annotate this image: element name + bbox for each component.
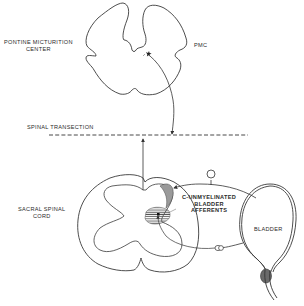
sacral-cord-cross-section [78, 175, 199, 272]
bladder-label: BLADDER [254, 226, 283, 233]
afferents-label-line3: AFFERENTS [182, 207, 236, 214]
sacral-label-line2: CORD [18, 213, 66, 220]
lamina-i-region [160, 184, 173, 208]
micturition-pathway-diagram: PONTINE MICTURITION CENTER PMC SPINAL TR… [0, 0, 304, 306]
pmc-neuron [143, 51, 152, 57]
pontine-label-line1: PONTINE MICTURITION [4, 39, 73, 46]
c-unmyelinated-afferents-label: C-UNMYELINATED BLADDER AFFERENTS [182, 194, 236, 214]
urethra-sphincter [261, 269, 278, 300]
afferents-label-line2: BLADDER [182, 201, 236, 208]
dorsal-root-ganglion [207, 170, 215, 178]
pmc-label: PMC [194, 42, 207, 49]
hatched-region [145, 207, 170, 224]
afferents-label-line1: C-UNMYELINATED [182, 194, 236, 201]
sacral-label-line1: SACRAL SPINAL [18, 206, 66, 213]
pontine-label-line2: CENTER [4, 46, 73, 53]
pontine-micturition-center-label: PONTINE MICTURITION CENTER [4, 39, 73, 52]
spinal-transection-label: SPINAL TRANSECTION [27, 124, 94, 131]
sacral-spinal-cord-label: SACRAL SPINAL CORD [18, 206, 66, 219]
descending-pathway [150, 56, 174, 134]
pons-cross-section [86, 3, 187, 95]
